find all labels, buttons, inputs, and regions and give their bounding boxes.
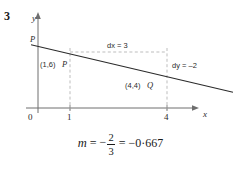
formula-denominator: 3 xyxy=(107,146,114,157)
x-axis-label: x xyxy=(202,109,207,119)
p-axis-marker-label: P xyxy=(29,34,35,44)
formula-fraction: 23 xyxy=(107,132,114,157)
dx-label: dx = 3 xyxy=(107,41,128,50)
p-coordinates-label: (1,6) xyxy=(40,60,56,69)
origin-tick-label: 0 xyxy=(28,112,33,122)
figure-container: 3 y x 0 1 4 P (1,6) P (4,4) Q xyxy=(0,0,241,170)
p-point-letter: P xyxy=(61,59,67,69)
formula-minus-sign: − xyxy=(100,135,107,149)
formula-result: −0·667 xyxy=(128,136,163,150)
y-axis-label: y xyxy=(31,13,36,23)
formula-fraction-bar xyxy=(107,144,114,145)
q-point-letter: Q xyxy=(147,80,153,90)
formula-equals-2: = xyxy=(119,136,126,150)
slope-formula: m=−23=−0·667 xyxy=(0,132,241,157)
y-axis-arrowhead xyxy=(35,12,41,19)
x-tick-label-4: 4 xyxy=(164,112,169,122)
x-axis-arrowhead xyxy=(192,105,199,111)
q-coordinates-label: (4,4) xyxy=(125,81,141,90)
formula-variable: m xyxy=(78,136,87,150)
formula-numerator: 2 xyxy=(107,132,114,143)
dy-label: dy = –2 xyxy=(172,61,197,70)
x-tick-label-1: 1 xyxy=(67,112,72,122)
formula-equals-1: = xyxy=(90,136,97,150)
